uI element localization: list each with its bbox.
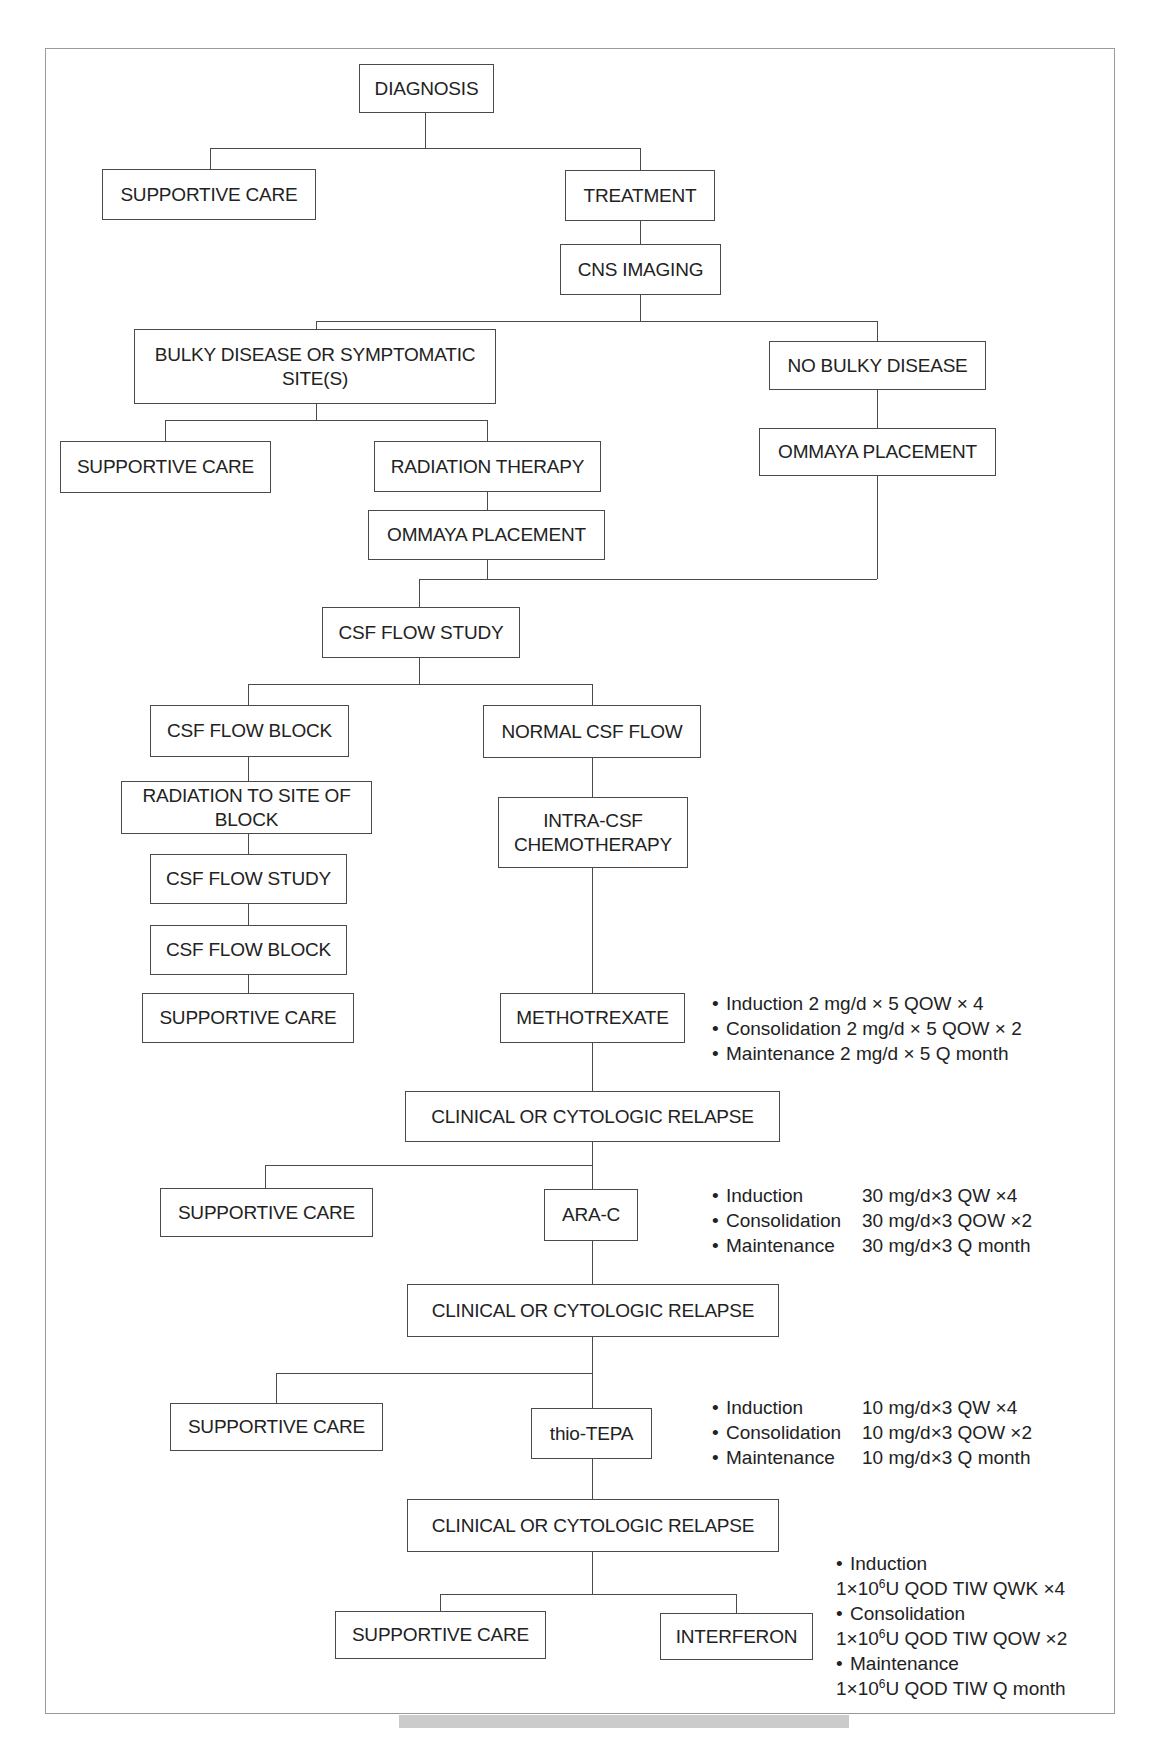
connector-line [487,492,488,510]
bullet-icon: • [712,1016,726,1041]
connector-line [877,476,878,579]
note-label-suffix: U QOD TIW Q month [885,1678,1065,1699]
node-csf-flow-study-1: CSF FLOW STUDY [322,607,520,658]
note-row: 1×106U QOD TIW QWK ×4 [836,1576,1067,1601]
connector-line [592,1552,593,1594]
connector-line [592,1241,593,1284]
node-label: CLINICAL OR CYTOLOGIC RELAPSE [432,1514,755,1538]
connector-line [419,579,420,607]
connector-line [316,321,877,322]
node-label: SUPPORTIVE CARE [77,455,254,479]
node-label: thio-TEPA [550,1422,633,1446]
note-label: Maintenance [726,1445,862,1470]
connector-line [487,560,488,579]
node-ommaya-placement-right: OMMAYA PLACEMENT [759,428,996,476]
note-label: Induction [850,1551,927,1576]
connector-line [276,1373,277,1403]
node-ommaya-placement-left: OMMAYA PLACEMENT [368,510,605,560]
node-supportive-care-1: SUPPORTIVE CARE [102,169,316,220]
connector-line [248,904,249,925]
bullet-icon: • [712,1183,726,1208]
connector-line [248,834,249,854]
connector-line [248,684,249,705]
node-ara-c: ARA-C [544,1189,638,1241]
note-ara-c-dosing: •Induction30 mg/d×3 QW ×4•Consolidation3… [712,1183,1032,1258]
note-label: Consolidation [726,1420,862,1445]
note-label-text: Consolidation [726,1422,841,1443]
note-value: 10 mg/d×3 QW ×4 [862,1395,1017,1420]
note-label-text: Maintenance [850,1653,959,1674]
node-treatment: TREATMENT [565,170,715,221]
node-label: CSF FLOW STUDY [338,621,503,645]
note-value: 30 mg/d×3 QOW ×2 [862,1208,1032,1233]
node-label: CSF FLOW BLOCK [166,938,331,962]
node-label: INTERFERON [676,1625,798,1649]
note-label: Maintenance [726,1233,862,1258]
bullet-icon: • [836,1651,850,1676]
connector-line [165,420,166,441]
connector-line [592,1142,593,1189]
node-label: SUPPORTIVE CARE [178,1201,355,1225]
node-label: DIAGNOSIS [375,77,479,101]
node-label: RADIATION THERAPY [391,455,584,479]
note-label-suffix: U QOD TIW QWK ×4 [885,1578,1065,1599]
note-label: Consolidation [850,1601,965,1626]
bullet-icon: • [712,1395,726,1420]
connector-line [265,1165,592,1166]
bullet-icon: • [712,991,726,1016]
note-label: Induction [726,1183,862,1208]
note-interferon-dosing: •Induction1×106U QOD TIW QWK ×4•Consolid… [836,1551,1067,1701]
note-row: •Consolidation 2 mg/d × 5 QOW × 2 [712,1016,1022,1041]
note-row: •Induction [836,1551,1067,1576]
note-row: •Maintenance10 mg/d×3 Q month [712,1445,1032,1470]
node-label: METHOTREXATE [516,1006,668,1030]
node-csf-flow-study-2: CSF FLOW STUDY [150,854,347,904]
note-label-text: 1×10 [836,1628,879,1649]
node-label: CLINICAL OR CYTOLOGIC RELAPSE [431,1105,754,1129]
note-row: •Maintenance30 mg/d×3 Q month [712,1233,1032,1258]
note-row: •Induction10 mg/d×3 QW ×4 [712,1395,1032,1420]
note-value: 30 mg/d×3 Q month [862,1233,1030,1258]
node-label: TREATMENT [584,184,697,208]
connector-line [592,758,593,797]
note-label: 1×106U QOD TIW Q month [836,1676,1066,1701]
node-interferon: INTERFERON [660,1613,813,1660]
note-thio-tepa-dosing: •Induction10 mg/d×3 QW ×4•Consolidation1… [712,1395,1032,1470]
note-label-text: 1×10 [836,1678,879,1699]
connector-line [265,1165,266,1188]
node-no-bulky-disease: NO BULKY DISEASE [769,341,986,390]
connector-line [248,975,249,993]
node-label: CNS IMAGING [578,258,704,282]
note-label-suffix: U QOD TIW QOW ×2 [885,1628,1067,1649]
node-label: SUPPORTIVE CARE [159,1006,336,1030]
connector-line [440,1594,441,1611]
node-thio-tepa: thio-TEPA [531,1408,652,1459]
connector-line [640,221,641,244]
connector-line [276,1373,592,1374]
connector-line [419,658,420,684]
node-label: NORMAL CSF FLOW [501,720,682,744]
note-label-text: Maintenance [726,1235,835,1256]
note-row: 1×106U QOD TIW Q month [836,1676,1067,1701]
note-label-text: Maintenance 2 mg/d × 5 Q month [726,1043,1009,1064]
connector-line [592,1043,593,1091]
note-label-text: Maintenance [726,1447,835,1468]
node-supportive-care-3: SUPPORTIVE CARE [142,993,354,1043]
node-supportive-care-6: SUPPORTIVE CARE [335,1611,546,1659]
node-supportive-care-4: SUPPORTIVE CARE [160,1188,373,1237]
node-label: INTRA-CSF CHEMOTHERAPY [503,809,683,857]
connector-line [877,390,878,428]
node-intra-csf-chemo: INTRA-CSF CHEMOTHERAPY [498,797,688,868]
node-label: ARA-C [562,1203,620,1227]
node-supportive-care-5: SUPPORTIVE CARE [170,1403,383,1451]
note-label: Induction 2 mg/d × 5 QOW × 4 [726,991,984,1016]
note-row: •Consolidation10 mg/d×3 QOW ×2 [712,1420,1032,1445]
node-cns-imaging: CNS IMAGING [560,244,721,295]
bullet-icon: • [712,1445,726,1470]
node-label: SUPPORTIVE CARE [188,1415,365,1439]
note-row: •Consolidation [836,1601,1067,1626]
bullet-icon: • [836,1601,850,1626]
connector-line [419,579,877,580]
connector-line [487,420,488,441]
node-csf-flow-block-1: CSF FLOW BLOCK [150,705,349,757]
